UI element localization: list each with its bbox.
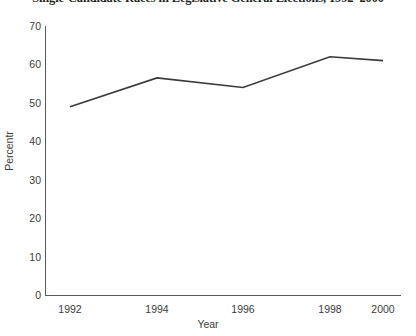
- x-axis-line: [45, 295, 401, 296]
- y-axis-label: Percentr: [3, 111, 15, 191]
- x-tick-label: 1992: [40, 303, 100, 315]
- y-tick-label: 60: [1, 58, 41, 70]
- chart-title: Single-Candidate Races in Legislative Ge…: [0, 0, 416, 6]
- line-series-path: [45, 26, 400, 295]
- x-tick-label: 1998: [300, 303, 360, 315]
- y-tick-label: 70: [1, 20, 41, 32]
- y-tick-label: 50: [1, 97, 41, 109]
- x-axis-label: Year: [0, 318, 416, 330]
- x-tick-label: 2000: [353, 303, 413, 315]
- y-tick-label: 20: [1, 212, 41, 224]
- y-tick-label: 10: [1, 251, 41, 263]
- plot-area: [45, 26, 400, 295]
- y-tick-label: 0: [1, 289, 41, 301]
- chart-figure: Single-Candidate Races in Legislative Ge…: [0, 0, 416, 336]
- x-tick-label: 1994: [127, 303, 187, 315]
- x-tick-label: 1996: [213, 303, 273, 315]
